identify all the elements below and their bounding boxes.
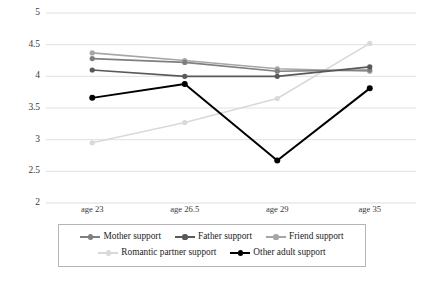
legend-item[interactable]: Father support: [175, 232, 252, 242]
legend-marker-icon: [98, 248, 118, 258]
data-point: [90, 50, 95, 55]
x-axis-tick-label: age 23: [81, 205, 104, 214]
legend-marker-icon: [80, 232, 100, 242]
series-lines: [92, 43, 370, 160]
legend-marker-icon: [175, 232, 195, 242]
data-point: [367, 41, 372, 46]
series-line: [92, 84, 370, 161]
chart-legend: Mother supportFather supportFriend suppo…: [58, 224, 366, 267]
data-point: [89, 95, 95, 101]
legend-label: Romantic partner support: [121, 248, 216, 257]
legend-label: Mother support: [103, 232, 161, 241]
chart-canvas: [0, 0, 421, 215]
x-axis-tick-label: age 26.5: [170, 205, 199, 214]
data-point: [182, 81, 188, 87]
legend-row: Romantic partner supportOther adult supp…: [65, 245, 359, 261]
line-chart: 22.533.544.55 age 23age 26.5age 29age 35…: [0, 0, 421, 283]
legend-item[interactable]: Romantic partner support: [98, 248, 216, 258]
data-point: [182, 60, 187, 65]
legend-label: Other adult support: [253, 248, 325, 257]
gridlines: [46, 13, 416, 203]
legend-marker-icon: [230, 248, 250, 258]
data-point: [275, 74, 280, 79]
data-point: [367, 64, 372, 69]
x-axis-tick-label: age 35: [358, 205, 381, 214]
data-point: [182, 74, 187, 79]
data-point: [182, 120, 187, 125]
data-point: [275, 69, 280, 74]
legend-item[interactable]: Other adult support: [230, 248, 325, 258]
series-markers: [89, 41, 373, 164]
data-point: [274, 158, 280, 164]
plot-area: 22.533.544.55 age 23age 26.5age 29age 35: [0, 0, 421, 215]
x-axis-tick-labels: age 23age 26.5age 29age 35: [46, 205, 416, 221]
legend-item[interactable]: Friend support: [266, 232, 344, 242]
x-axis-tick-label: age 29: [266, 205, 289, 214]
data-point: [367, 85, 373, 91]
legend-label: Friend support: [289, 232, 344, 241]
legend-item[interactable]: Mother support: [80, 232, 161, 242]
series-line: [92, 43, 370, 142]
legend-row: Mother supportFather supportFriend suppo…: [65, 229, 359, 245]
data-point: [90, 56, 95, 61]
legend-label: Father support: [198, 232, 252, 241]
data-point: [90, 67, 95, 72]
data-point: [275, 96, 280, 101]
data-point: [90, 140, 95, 145]
legend-marker-icon: [266, 232, 286, 242]
